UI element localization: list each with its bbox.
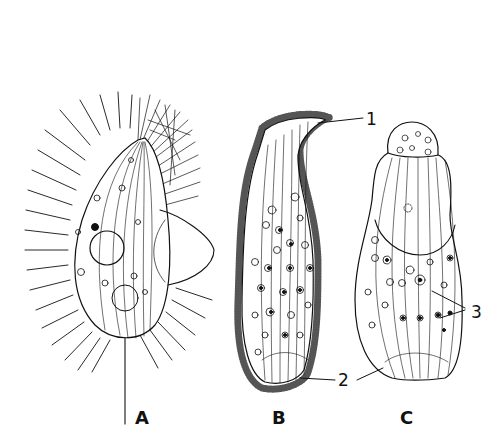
panel-a-label: A [135, 407, 149, 428]
panel-b-label: B [272, 407, 286, 428]
callout-1-label: 1 [366, 109, 377, 129]
callout-2-label: 2 [338, 370, 349, 390]
organism-c [355, 122, 462, 380]
organism-b [238, 114, 330, 389]
callout-3-label: 3 [471, 302, 482, 322]
ciliate-illustration: 1 2 3 A B C [0, 0, 503, 444]
organism-a [25, 92, 214, 424]
panel-c-label: C [400, 407, 413, 428]
